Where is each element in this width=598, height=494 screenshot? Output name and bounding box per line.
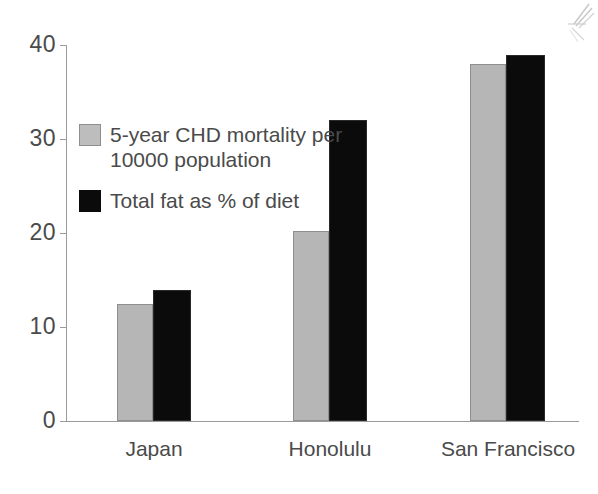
bar-japan-fat: [153, 290, 191, 421]
x-axis-label-san-francisco: San Francisco: [428, 436, 588, 461]
y-tick-mark-30: [60, 139, 66, 140]
bar-chart-figure: 40 30 20 10 0 Japan Honolulu San Fran: [0, 0, 598, 494]
legend-entry-mortality: 5-year CHD mortality per 10000 populatio…: [79, 122, 342, 172]
legend-swatch-icon-total-fat: [79, 190, 101, 212]
legend-swatch-icon-mortality: [79, 124, 101, 146]
y-tick-label-0: 0: [12, 409, 56, 432]
x-axis-line: [66, 421, 579, 422]
bar-sanfrancisco-mortality: [470, 64, 506, 421]
bar-sanfrancisco-fat: [506, 55, 545, 421]
y-tick-label-20: 20: [12, 221, 56, 244]
x-axis-label-japan: Japan: [74, 436, 234, 461]
y-tick-mark-10: [60, 327, 66, 328]
legend-entry-total-fat: Total fat as % of diet: [79, 188, 342, 213]
legend-label-total-fat: Total fat as % of diet: [110, 188, 299, 213]
y-tick-mark-20: [60, 233, 66, 234]
legend-label-mortality: 5-year CHD mortality per 10000 populatio…: [110, 122, 342, 172]
y-tick-label-10: 10: [12, 315, 56, 338]
y-tick-label-30: 30: [12, 127, 56, 150]
x-axis-label-honolulu: Honolulu: [250, 436, 410, 461]
bar-japan-mortality: [117, 304, 153, 421]
y-tick-label-40: 40: [12, 33, 56, 56]
bar-honolulu-mortality: [293, 231, 329, 421]
plot-area: 40 30 20 10 0 Japan Honolulu San Fran: [0, 0, 598, 494]
y-axis-line: [66, 45, 67, 422]
y-tick-mark-40: [60, 45, 66, 46]
y-tick-mark-0: [60, 421, 66, 422]
scan-artifact-icon: [556, 2, 596, 44]
legend: 5-year CHD mortality per 10000 populatio…: [79, 122, 342, 229]
